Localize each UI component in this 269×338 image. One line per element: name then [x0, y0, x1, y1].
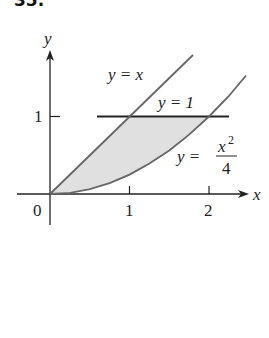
- annotation-denominator: 4: [222, 159, 231, 178]
- figure: 35. y x 0 1 2 1 y = x y = 1 y = x 2 4: [0, 0, 269, 338]
- x-axis-label: x: [252, 185, 261, 204]
- annotation-y-equals-1: y = 1: [156, 93, 194, 112]
- annotation-y-equals-x-squared-over-4: y = x 2 4: [175, 133, 237, 178]
- origin-label: 0: [33, 201, 42, 220]
- annotation-exponent: 2: [228, 133, 234, 147]
- annotation-y-equals-x: y = x: [106, 65, 144, 84]
- y-tick-label-1: 1: [34, 107, 43, 126]
- y-axis-label: y: [42, 29, 52, 48]
- problem-number: 35.: [14, 0, 44, 10]
- x-tick-label-1: 1: [125, 201, 134, 220]
- x-tick-label-2: 2: [204, 201, 213, 220]
- annotation-numerator: x: [217, 137, 226, 156]
- annotation-lhs: y =: [175, 147, 200, 166]
